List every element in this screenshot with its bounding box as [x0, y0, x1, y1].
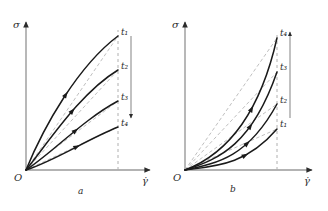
curve-label-b-2: t₃ — [280, 62, 288, 72]
curve-label-b-4: t₁ — [280, 119, 287, 129]
curve-label-b-1: t₄ — [280, 28, 288, 38]
panel-a: σγ̇Ot₁t₂t₃t₄ — [13, 19, 150, 186]
curve-direction-marker-b-4 — [241, 152, 249, 159]
curve-label-a-1: t₁ — [121, 27, 128, 37]
y-axis-label-b: σ — [172, 19, 180, 30]
origin-label-b: O — [173, 172, 181, 183]
panel-b: σγ̇Ot₄t₃t₂t₁ — [172, 19, 312, 186]
y-axis-label-a: σ — [13, 19, 21, 30]
curve-label-a-4: t₄ — [121, 118, 129, 128]
curve-direction-marker-a-4 — [73, 143, 81, 150]
x-axis-label-a: γ̇ — [142, 175, 148, 186]
curve-label-b-3: t₂ — [280, 95, 288, 105]
curve-label-a-3: t₃ — [121, 92, 129, 102]
origin-label-a: O — [14, 172, 22, 183]
panel-a-caption: a — [78, 186, 83, 196]
panel-b-caption: b — [230, 184, 236, 194]
figure-canvas: σγ̇Ot₁t₂t₃t₄σγ̇Ot₄t₃t₂t₁ — [0, 0, 328, 211]
curve-label-a-2: t₂ — [121, 61, 129, 71]
rheology-figure: σγ̇Ot₁t₂t₃t₄σγ̇Ot₄t₃t₂t₁ a b — [0, 0, 328, 211]
x-axis-label-b: γ̇ — [304, 175, 310, 186]
